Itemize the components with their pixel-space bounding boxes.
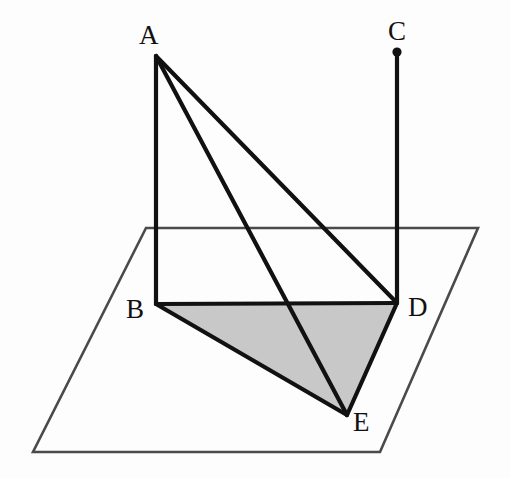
geometry-canvas [0,0,510,478]
edge-ad [156,56,397,303]
edge-bd [156,303,397,304]
vertex-label-d: D [408,294,428,321]
vertex-label-c: C [388,18,406,45]
vertex-label-a: A [139,22,159,49]
point-marker-c [392,47,401,56]
geometry-figure: A B C D E [0,0,510,478]
shaded-triangle-bde [156,303,397,415]
vertex-label-e: E [353,409,370,436]
vertex-label-b: B [126,296,144,323]
